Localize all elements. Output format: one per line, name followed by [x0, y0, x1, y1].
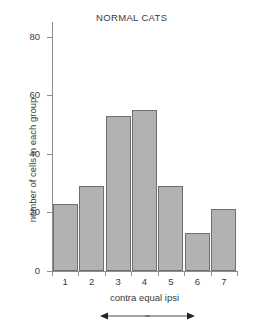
x-axis-tick [211, 271, 212, 276]
x-axis-tick [52, 271, 53, 276]
ipsi-arrow-icon [145, 311, 195, 321]
y-axis-tick-label: 80 [29, 31, 40, 42]
x-axis-tick [158, 271, 159, 276]
bar [79, 186, 104, 271]
bar [132, 110, 157, 271]
contra-arrow-icon [100, 311, 150, 321]
x-axis-tick-label: 2 [89, 276, 94, 287]
x-axis-tick-label: 5 [168, 276, 173, 287]
x-axis-tick [237, 271, 238, 276]
bar-chart-figure: NORMAL CATS number of cells in each grou… [0, 0, 273, 327]
y-axis-tick: 60 [47, 95, 53, 96]
x-axis-tick-label: 6 [195, 276, 200, 287]
y-axis-tick: 80 [47, 37, 53, 38]
y-axis-tick-label: 40 [29, 148, 40, 159]
direction-arrows [52, 306, 237, 320]
x-axis-tick-label: 3 [115, 276, 120, 287]
x-axis-tick-label: 4 [142, 276, 147, 287]
bar [185, 233, 210, 271]
y-axis-tick-label: 60 [29, 89, 40, 100]
bar [106, 116, 131, 271]
plot-area: 0204060801234567 [52, 22, 237, 272]
y-axis-tick-label: 20 [29, 206, 40, 217]
x-axis-caption: contra equal ipsi [52, 292, 237, 303]
x-axis-tick [78, 271, 79, 276]
x-axis-line [52, 271, 237, 272]
bar [158, 186, 183, 271]
bar [53, 204, 78, 271]
x-axis-tick [131, 271, 132, 276]
x-axis-tick [105, 271, 106, 276]
x-axis-tick-label: 7 [221, 276, 226, 287]
x-axis-tick [184, 271, 185, 276]
y-axis-tick: 40 [47, 154, 53, 155]
y-axis-tick-label: 0 [35, 265, 40, 276]
x-axis-tick-label: 1 [63, 276, 68, 287]
bar [211, 209, 236, 271]
